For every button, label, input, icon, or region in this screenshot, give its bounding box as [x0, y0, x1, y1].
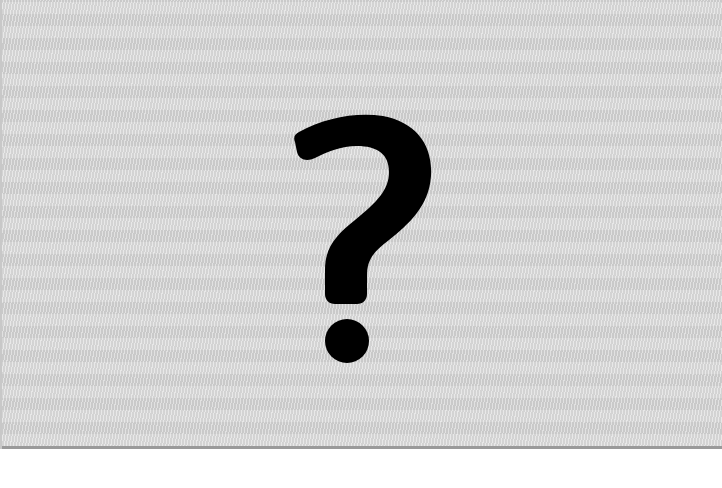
image-placeholder: [0, 0, 722, 449]
placeholder-left-edge: [0, 0, 2, 449]
blank-area: [0, 449, 722, 488]
page: [0, 0, 722, 488]
question-mark-dot: [325, 319, 369, 363]
question-mark-hook: [294, 115, 431, 304]
question-mark-icon: [285, 110, 435, 370]
